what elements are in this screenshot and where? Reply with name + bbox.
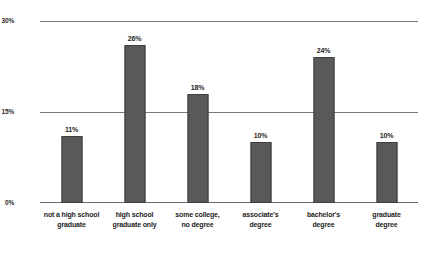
y-tick-label-30: 30% <box>0 18 14 25</box>
bar-some-college-no-degree[interactable] <box>187 94 208 203</box>
x-label-associates-degree: associate'sdegree <box>227 210 294 230</box>
bar-slot-2: 18% <box>166 21 229 203</box>
plot-area: 11% 26% 18% 10% 24% 10% <box>40 21 418 203</box>
bar-bachelors-degree[interactable] <box>313 57 334 203</box>
bar-slot-0: 11% <box>40 21 103 203</box>
x-axis-category-labels: not a high schoolgraduate high schoolgra… <box>40 210 418 250</box>
x-label-bachelors-degree: bachelor'sdegree <box>290 210 357 230</box>
bar-slot-3: 10% <box>229 21 292 203</box>
bar-high-school-graduate-only[interactable] <box>124 45 145 203</box>
bar-slot-4: 24% <box>292 21 355 203</box>
bar-not-a-high-school-graduate[interactable] <box>61 136 82 203</box>
x-label-some-college-no-degree: some college,no degree <box>164 210 231 230</box>
bar-value-label-5: 10% <box>380 132 393 139</box>
bar-value-label-4: 24% <box>317 47 330 54</box>
bar-slot-5: 10% <box>355 21 418 203</box>
x-label-high-school-graduate-only: high schoolgraduate only <box>101 210 168 230</box>
y-tick-label-0: 0% <box>0 200 14 207</box>
bar-value-label-0: 11% <box>65 126 78 133</box>
x-label-not-a-high-school-graduate: not a high schoolgraduate <box>38 210 105 230</box>
bar-chart: 30% 15% 0% 11% 26% 18% 10% 24% <box>0 0 438 253</box>
bar-slot-1: 26% <box>103 21 166 203</box>
bar-associates-degree[interactable] <box>250 142 271 203</box>
bar-value-label-3: 10% <box>254 132 267 139</box>
y-tick-label-15: 15% <box>0 109 14 116</box>
bar-graduate-degree[interactable] <box>376 142 397 203</box>
bar-value-label-2: 18% <box>191 84 204 91</box>
x-label-graduate-degree: graduatedegree <box>353 210 420 230</box>
bar-value-label-1: 26% <box>128 35 141 42</box>
